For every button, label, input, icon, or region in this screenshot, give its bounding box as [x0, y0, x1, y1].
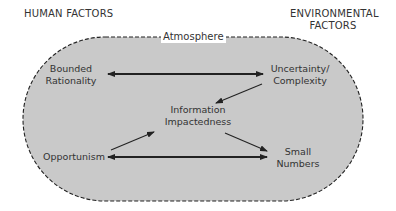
environmental-factors-header: ENVIRONMENTAL FACTORS: [290, 8, 376, 32]
node-label-line2: Impactedness: [158, 116, 238, 128]
node-label-line2: Rationality: [38, 75, 104, 87]
node-bounded-rationality: Bounded Rationality: [38, 63, 104, 86]
node-label-line1: Opportunism: [40, 151, 108, 163]
node-label-line2: Numbers: [270, 158, 326, 170]
atmosphere-label: Atmosphere: [161, 31, 226, 43]
node-uncertainty-complexity: Uncertainty/ Complexity: [265, 63, 335, 86]
human-factors-header: HUMAN FACTORS: [24, 8, 113, 20]
node-small-numbers: Small Numbers: [270, 146, 326, 169]
node-label-line1: Bounded: [38, 63, 104, 75]
node-label-line1: Small: [270, 146, 326, 158]
environmental-header-line1: ENVIRONMENTAL: [290, 8, 376, 20]
node-label-line2: Complexity: [265, 75, 335, 87]
node-opportunism: Opportunism: [40, 151, 108, 163]
node-information-impactedness: Information Impactedness: [158, 104, 238, 127]
node-label-line1: Information: [158, 104, 238, 116]
node-label-line1: Uncertainty/: [265, 63, 335, 75]
environmental-header-line2: FACTORS: [290, 20, 376, 32]
transaction-cost-framework-diagram: HUMAN FACTORS ENVIRONMENTAL FACTORS Atmo…: [0, 0, 396, 211]
